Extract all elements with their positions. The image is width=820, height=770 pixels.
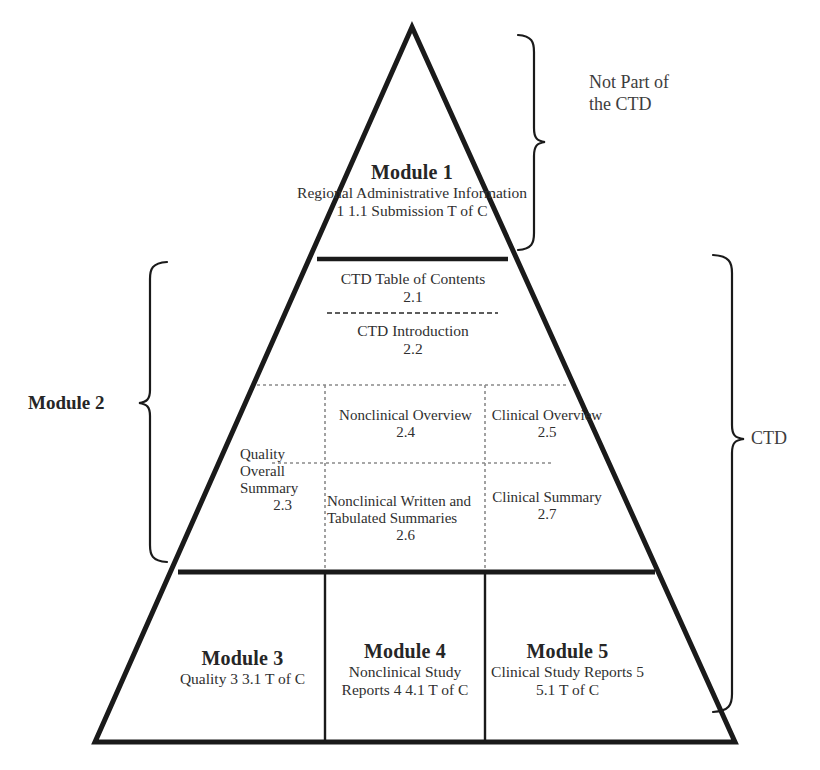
clinical-overview-label: Clinical Overview bbox=[492, 407, 602, 424]
ctd-introduction-cell: CTD Introduction 2.2 bbox=[310, 318, 516, 362]
ctd-table-of-contents-label: CTD Table of Contents bbox=[341, 270, 486, 288]
nonclinical-summaries-cell: Nonclinical Written and Tabulated Summar… bbox=[327, 466, 484, 570]
module-4-title: Module 4 bbox=[364, 640, 446, 663]
annotation-ctd: CTD bbox=[751, 428, 811, 450]
ctd-introduction-label: CTD Introduction bbox=[357, 322, 469, 340]
module-3-lines: Quality 3 3.1 T of C bbox=[180, 670, 305, 688]
quality-overall-summary-cell: Quality Overall Summary 2.3 bbox=[240, 440, 325, 520]
ctd-introduction-number: 2.2 bbox=[403, 340, 422, 358]
module-3-cell: Module 3 Quality 3 3.1 T of C bbox=[160, 622, 325, 712]
clinical-overview-cell: Clinical Overview 2.5 bbox=[487, 388, 607, 460]
brace-ctd bbox=[713, 255, 744, 712]
nonclinical-overview-number: 2.4 bbox=[396, 424, 415, 441]
module-4-cell: Module 4 Nonclinical Study Reports 4 4.1… bbox=[325, 622, 485, 717]
nonclinical-overview-cell: Nonclinical Overview 2.4 bbox=[327, 388, 484, 460]
clinical-summary-number: 2.7 bbox=[538, 506, 557, 523]
ctd-table-of-contents-number: 2.1 bbox=[403, 288, 422, 306]
annotation-module2: Module 2 bbox=[28, 392, 120, 415]
nonclinical-summaries-number: 2.6 bbox=[396, 527, 415, 544]
module-3-title: Module 3 bbox=[201, 647, 283, 670]
module-4-lines: Nonclinical Study Reports 4 4.1 T of C bbox=[325, 663, 485, 699]
clinical-overview-number: 2.5 bbox=[538, 424, 557, 441]
module-5-lines: Clinical Study Reports 5 5.1 T of C bbox=[485, 663, 650, 699]
module-5-title: Module 5 bbox=[526, 640, 608, 663]
clinical-summary-label: Clinical Summary bbox=[492, 489, 602, 506]
quality-overall-summary-label: Quality Overall Summary bbox=[240, 446, 325, 497]
module-1-lines: Regional Administrative Information 1 1.… bbox=[292, 184, 532, 220]
ctd-table-of-contents-cell: CTD Table of Contents 2.1 bbox=[300, 266, 526, 310]
annotation-not-part-of-ctd: Not Part of the CTD bbox=[589, 72, 779, 115]
nonclinical-summaries-label: Nonclinical Written and Tabulated Summar… bbox=[327, 493, 484, 527]
clinical-summary-cell: Clinical Summary 2.7 bbox=[487, 470, 607, 542]
module-1-cell: Module 1 Regional Administrative Informa… bbox=[292, 128, 532, 253]
quality-overall-summary-number: 2.3 bbox=[273, 497, 292, 514]
brace-module2 bbox=[139, 262, 167, 562]
nonclinical-overview-label: Nonclinical Overview bbox=[339, 407, 472, 424]
module-5-cell: Module 5 Clinical Study Reports 5 5.1 T … bbox=[485, 622, 650, 717]
module-1-title: Module 1 bbox=[371, 161, 453, 184]
